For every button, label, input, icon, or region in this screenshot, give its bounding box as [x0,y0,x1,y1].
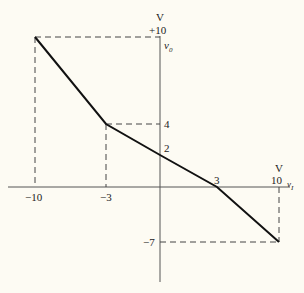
x-tick-minus10: −10 [25,192,42,203]
x-tick-3: 3 [214,175,220,186]
y-axis-name: v0 [164,40,172,54]
transfer-characteristic-diagram: V +10 v0 4 2 −7 V 10 vI 3 −10 −3 [0,0,304,293]
x-axis-name: vI [287,180,293,192]
y-tick-top: +10 [149,25,166,36]
y-tick-4: 4 [164,119,170,130]
plot-canvas [0,0,304,293]
transfer-curve [35,37,279,242]
y-unit-label: V [156,12,164,23]
y-tick-minus7: −7 [143,237,155,248]
x-tick-10: 10 [271,175,282,186]
y-tick-2: 2 [164,143,170,154]
x-tick-minus3: −3 [100,192,112,203]
dashed-guides [35,37,279,242]
x-unit-label: V [275,163,283,174]
